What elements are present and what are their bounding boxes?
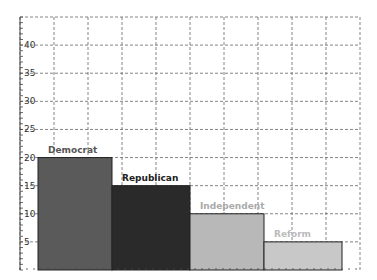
y-tick-label: 35 bbox=[24, 68, 35, 78]
bar-label-democrat: Democrat bbox=[48, 145, 98, 155]
y-tick-label: 10 bbox=[24, 209, 36, 219]
y-tick-label: 40 bbox=[24, 40, 36, 50]
bar-label-independent: Independent bbox=[200, 201, 265, 211]
bar-label-republican: Republican bbox=[122, 173, 178, 183]
bar-independent bbox=[190, 214, 264, 270]
bar-chart: 510152025303540 DemocratRepublicanIndepe… bbox=[0, 0, 377, 280]
y-tick-label: 30 bbox=[24, 96, 36, 106]
y-tick-label: 20 bbox=[24, 153, 36, 163]
y-tick-label: 25 bbox=[24, 124, 35, 134]
bar-republican bbox=[112, 186, 190, 270]
y-tick-label: 5 bbox=[24, 237, 30, 247]
bar-reform bbox=[264, 242, 342, 270]
bar-label-reform: Reform bbox=[274, 229, 311, 239]
y-tick-label: 15 bbox=[24, 181, 35, 191]
bar-democrat bbox=[38, 158, 112, 270]
